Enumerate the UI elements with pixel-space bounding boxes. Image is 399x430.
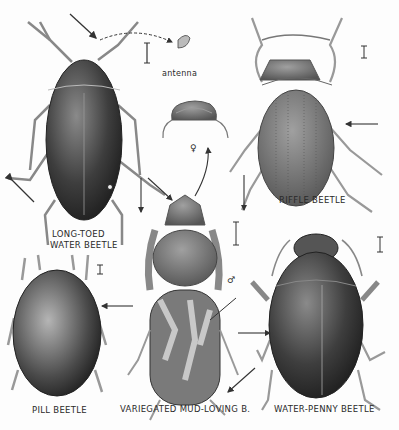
- female-head-detail: [163, 101, 228, 138]
- riffle-beetle-label: RIFFLE BEETLE: [279, 195, 346, 206]
- variegated-mud-loving-beetle: [128, 195, 238, 420]
- female-symbol: ♀: [190, 143, 197, 154]
- variegated-mud-loving-beetle-label: VARIEGATED MUD-LOVING B.: [120, 404, 250, 415]
- arrow: [70, 14, 96, 38]
- riffle-beetle: [230, 18, 382, 212]
- long-toed-water-beetle-label-line1: LONG-TOED: [52, 229, 105, 240]
- water-penny-beetle-label: WATER-PENNY BEETLE: [274, 404, 375, 415]
- long-toed-water-beetle-label-line2: WATER BEETLE: [50, 240, 118, 251]
- pill-beetle: [8, 255, 106, 396]
- male-symbol: ♂: [227, 275, 235, 286]
- beetle-drawings: [0, 0, 399, 430]
- antenna-detail: [178, 35, 190, 48]
- beetle-illustration-plate: antenna ♀ ♂ LONG-TOED WATER BEETLE RIFFL…: [0, 0, 399, 430]
- pill-beetle-label: PILL BEETLE: [32, 405, 87, 416]
- water-penny-beetle: [252, 234, 385, 410]
- antenna-label: antenna: [162, 68, 197, 79]
